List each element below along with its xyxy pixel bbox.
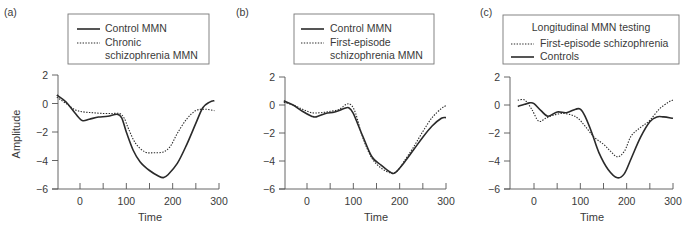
series-line-chronic-schizophrenia-mmn bbox=[57, 97, 215, 153]
x-tick-label: 0 bbox=[304, 195, 310, 207]
x-axis-title: Time bbox=[580, 211, 604, 223]
axes-a: 20−2−4−60100200300 bbox=[36, 69, 228, 207]
x-axis-title: Time bbox=[364, 211, 388, 223]
legend-entry-first-episode: First-episode schizophrenia bbox=[540, 37, 669, 49]
panel-b: (b) Control MMN First-episode schizophre… bbox=[236, 6, 455, 223]
x-tick-label: 100 bbox=[345, 195, 363, 207]
x-tick-label: 100 bbox=[118, 195, 136, 207]
x-axis-title: Time bbox=[138, 211, 162, 223]
curves-c bbox=[518, 99, 673, 178]
y-tick-label: 2 bbox=[494, 71, 500, 83]
y-tick-label: −4 bbox=[263, 155, 275, 167]
panel-c-label: (c) bbox=[480, 6, 492, 18]
series-line-controls bbox=[518, 103, 673, 178]
panel-a: (a) Control MMN Chronic schizophrenia MM… bbox=[4, 6, 228, 223]
x-tick-label: 300 bbox=[210, 195, 228, 207]
legend-entry-chronic: Chronic bbox=[105, 36, 141, 48]
y-tick-label: −2 bbox=[488, 127, 500, 139]
panel-a-label: (a) bbox=[4, 6, 17, 18]
y-axis-title: Amplitude bbox=[10, 110, 22, 159]
legend-entry-chronic-cont: schizophrenia MMN bbox=[105, 49, 198, 61]
y-tick-label: −4 bbox=[488, 155, 500, 167]
axes-b: 20−2−4−60100200300 bbox=[263, 71, 455, 207]
axes-c: 20−2−4−60100200300 bbox=[488, 71, 682, 207]
legend-entry-controls: Controls bbox=[540, 50, 579, 62]
x-tick-label: 0 bbox=[77, 195, 83, 207]
y-tick-label: 0 bbox=[494, 99, 500, 111]
panel-b-label: (b) bbox=[236, 6, 249, 18]
legend-entry-control: Control MMN bbox=[330, 22, 392, 34]
y-tick-label: −6 bbox=[488, 183, 500, 195]
curves-a bbox=[57, 95, 215, 178]
panel-c: (c) Longitudinal MMN testing First-episo… bbox=[480, 6, 682, 223]
x-tick-label: 200 bbox=[164, 195, 182, 207]
y-tick-label: −2 bbox=[263, 127, 275, 139]
legend-entry-first-episode: First-episode bbox=[330, 36, 391, 48]
x-tick-label: 200 bbox=[391, 195, 409, 207]
mmn-figure: (a) Control MMN Chronic schizophrenia MM… bbox=[0, 0, 693, 237]
y-tick-label: −6 bbox=[263, 183, 275, 195]
x-tick-label: 0 bbox=[531, 195, 537, 207]
y-tick-label: 0 bbox=[269, 99, 275, 111]
series-line-first-episode-schizophrenia bbox=[518, 99, 673, 156]
y-tick-label: −6 bbox=[36, 183, 48, 195]
y-tick-label: −4 bbox=[36, 155, 48, 167]
y-tick-label: 0 bbox=[42, 98, 48, 110]
y-tick-label: −2 bbox=[36, 126, 48, 138]
legend-entry-first-episode-cont: schizophrenia MMN bbox=[330, 49, 423, 61]
y-tick-label: 2 bbox=[269, 71, 275, 83]
x-tick-label: 300 bbox=[664, 195, 682, 207]
legend-entry-control: Control MMN bbox=[105, 22, 167, 34]
x-tick-label: 200 bbox=[618, 195, 636, 207]
curves-b bbox=[284, 101, 446, 174]
legend-title: Longitudinal MMN testing bbox=[532, 21, 651, 33]
series-line-control-mmn bbox=[57, 95, 215, 178]
x-tick-label: 300 bbox=[437, 195, 455, 207]
legend-b: Control MMN First-episode schizophrenia … bbox=[294, 14, 434, 64]
legend-a: Control MMN Chronic schizophrenia MMN bbox=[68, 14, 209, 64]
legend-c: Longitudinal MMN testing First-episode s… bbox=[503, 15, 679, 64]
y-tick-label: 2 bbox=[42, 69, 48, 81]
x-tick-label: 100 bbox=[572, 195, 590, 207]
